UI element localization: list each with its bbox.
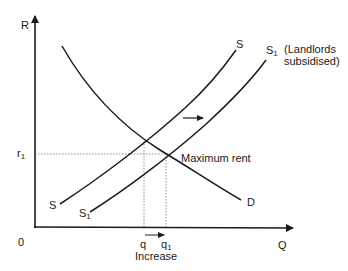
- supply-curve-s1: [90, 60, 266, 212]
- maximum-rent-label: Maximum rent: [181, 152, 251, 164]
- r1-label: r1: [17, 147, 25, 159]
- s-curve-label-bottom: S: [49, 199, 56, 211]
- demand-curve: [62, 46, 241, 200]
- x-axis-label: Q: [278, 239, 287, 251]
- y-axis-label: R: [21, 19, 29, 31]
- q1-label: q1: [161, 238, 172, 250]
- origin-label: 0: [18, 236, 24, 248]
- diagram-canvas: [0, 0, 348, 271]
- d-curve-label: D: [247, 196, 255, 208]
- x-axis: [34, 227, 293, 228]
- s-curve-label-top: S: [236, 38, 243, 50]
- q-label: q: [140, 238, 146, 250]
- subsidy-note: (Landlords subsidised): [284, 43, 340, 67]
- increase-label: Increase: [135, 250, 177, 262]
- s1-curve-label-bottom: S1: [79, 207, 91, 219]
- s1-curve-label-top: S1: [266, 44, 278, 56]
